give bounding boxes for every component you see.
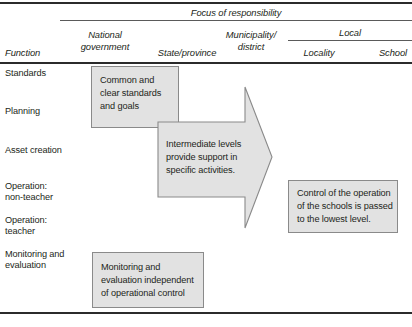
callout-box-monitoring-text: Monitoring and evaluation independent of… bbox=[101, 261, 201, 301]
callout-box-control: Control of the operation of the schools … bbox=[288, 180, 398, 233]
group-header-focus-of-responsibility: Focus of responsibility bbox=[60, 7, 412, 19]
focus-group-rule bbox=[60, 20, 412, 21]
row-label-operation-non-teacher: Operation: non-teacher bbox=[5, 181, 90, 203]
table-top-rule bbox=[0, 2, 412, 4]
row-label-standards: Standards bbox=[5, 68, 90, 79]
row-label-planning: Planning bbox=[5, 106, 90, 117]
callout-box-monitoring: Monitoring and evaluation independent of… bbox=[92, 252, 204, 308]
support-arrow-text: Intermediate levels provide support in s… bbox=[166, 138, 258, 178]
row-label-asset-creation: Asset creation bbox=[5, 145, 90, 156]
local-group-rule bbox=[288, 40, 412, 41]
column-header-national-government: National government bbox=[66, 29, 144, 52]
subgroup-header-local: Local bbox=[288, 27, 412, 39]
column-header-school: School bbox=[330, 47, 407, 59]
row-label-monitoring-and-evaluation: Monitoring and evaluation bbox=[5, 249, 90, 271]
header-bottom-rule bbox=[0, 62, 412, 64]
column-header-municipality-district: Municipality/ district bbox=[212, 29, 290, 52]
table-bottom-rule bbox=[0, 312, 412, 314]
row-label-operation-teacher: Operation: teacher bbox=[5, 215, 90, 237]
column-header-function: Function bbox=[5, 47, 75, 59]
figure-table: Focus of responsibility Local Function N… bbox=[0, 0, 412, 327]
callout-box-control-text: Control of the operation of the schools … bbox=[297, 187, 395, 227]
